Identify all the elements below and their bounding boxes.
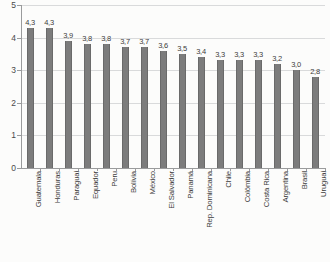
x-axis-category-label: Equador [91, 171, 100, 261]
bar-value-label: 4,3 [36, 18, 62, 27]
x-axis-category-label: Guatemala [34, 171, 43, 261]
y-axis-tick-label: 5 [0, 0, 16, 10]
x-axis-category-label: El Salvador [167, 171, 176, 261]
bar [293, 70, 300, 168]
x-axis-category-label: Chile [224, 171, 233, 261]
x-axis-category-label: Brasil [300, 171, 309, 261]
x-axis-category-label: Honduras [53, 171, 62, 261]
bar [160, 51, 167, 168]
x-axis-category-label: Uruguai [319, 171, 328, 261]
bar [312, 77, 319, 168]
x-axis-category-label: Bolívia [129, 171, 138, 261]
x-axis-category-label: Colômbia [243, 171, 252, 261]
bar [236, 60, 243, 168]
bar [179, 54, 186, 168]
x-axis-category-label: Peru [110, 171, 119, 261]
x-axis-category-label: Paraguai [72, 171, 81, 261]
y-axis-tick-label: 1 [0, 130, 16, 140]
y-axis-tick-label: 2 [0, 98, 16, 108]
y-axis-line [21, 5, 22, 169]
bar [274, 64, 281, 168]
x-axis-category-label: México [148, 171, 157, 261]
bar [198, 57, 205, 168]
bar-value-label: 2,8 [302, 67, 328, 76]
bar [27, 28, 34, 168]
chart-figure: 012345 4,34,33,93,83,83,73,73,63,53,43,3… [0, 0, 330, 262]
bar [103, 44, 110, 168]
bar [255, 60, 262, 168]
bar [65, 41, 72, 168]
bar [84, 44, 91, 168]
bar [141, 47, 148, 168]
x-axis-category-label: Costa Rica [262, 171, 271, 261]
bar [46, 28, 53, 168]
x-axis-category-label: Rep. Dominicana [205, 171, 214, 261]
y-axis-tick-label: 3 [0, 65, 16, 75]
x-axis-category-label: Argentina [281, 171, 290, 261]
y-axis-tick-label: 4 [0, 33, 16, 43]
y-axis-tick-label: 0 [0, 163, 16, 173]
bar [217, 60, 224, 168]
gridline [21, 5, 325, 6]
bar [122, 47, 129, 168]
x-axis-category-label: Panamá [186, 171, 195, 261]
